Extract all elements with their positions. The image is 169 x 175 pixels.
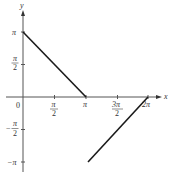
segment-1-line <box>23 32 86 97</box>
chart: y x 0 π 2 π 3π 2 2π π π 2 − π 2 −π <box>0 0 169 175</box>
x-tick-pi: π <box>83 100 88 109</box>
x-tick-pi-half-num: π <box>52 100 57 109</box>
x-axis-label: x <box>163 92 168 101</box>
y-tick-pi: π <box>12 28 17 37</box>
y-tick-neg-pi-half-num: π <box>13 119 18 128</box>
x-axis-arrow-icon <box>156 95 162 99</box>
y-tick-pi-half-num: π <box>13 54 18 63</box>
x-tick-2pi: 2π <box>142 100 151 109</box>
x-tick-3pi-half-num: 3π <box>111 100 121 109</box>
x-tick-0: 0 <box>16 101 20 110</box>
y-tick-neg-pi-half-sign: − <box>6 124 11 133</box>
x-tick-pi-half-den: 2 <box>52 109 56 118</box>
y-axis-arrow-icon <box>21 10 25 16</box>
x-tick-3pi-half-den: 2 <box>115 109 119 118</box>
y-tick-pi-half-den: 2 <box>13 63 17 72</box>
y-tick-neg-pi: −π <box>7 158 17 167</box>
y-tick-neg-pi-half-den: 2 <box>13 129 17 138</box>
y-axis-label: y <box>19 1 24 10</box>
